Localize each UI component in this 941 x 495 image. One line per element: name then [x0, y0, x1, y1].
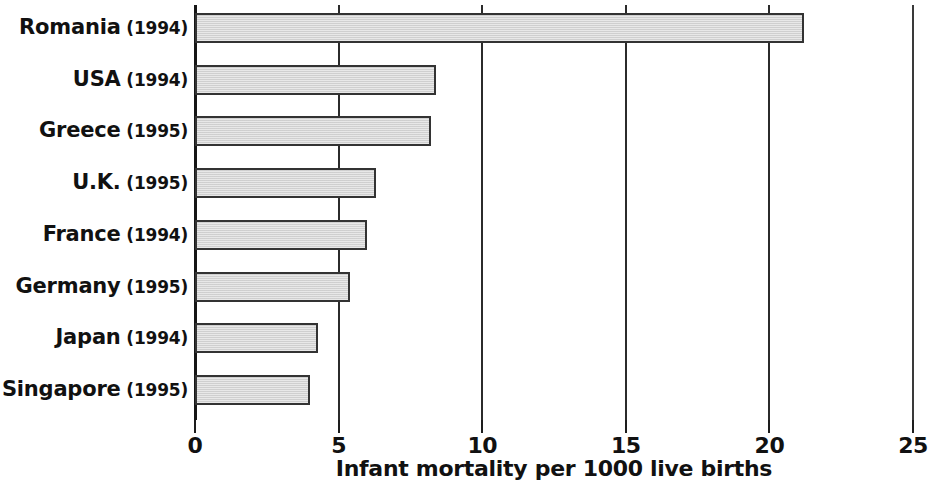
- gridline-10: [481, 5, 483, 420]
- bar-singapore: [195, 375, 310, 405]
- category-label-greece: Greece (1995): [39, 120, 188, 141]
- x-tick-label-15: 15: [611, 433, 641, 458]
- gridline-20: [768, 5, 770, 420]
- category-country-name: USA: [73, 67, 121, 91]
- bar-japan: [195, 323, 318, 353]
- bar-u-k: [195, 168, 376, 198]
- bar-chart: 0510152025Romania (1994)USA (1994)Greece…: [0, 0, 941, 495]
- category-label-usa: USA (1994): [73, 69, 188, 90]
- category-country-name: France: [43, 222, 121, 246]
- bar-germany: [195, 272, 350, 302]
- category-label-france: France (1994): [43, 224, 188, 245]
- x-tick-25: [912, 420, 914, 433]
- plot-area: 0510152025Romania (1994)USA (1994)Greece…: [0, 0, 941, 495]
- x-tick-label-20: 20: [755, 433, 785, 458]
- category-label-u-k: U.K. (1995): [72, 172, 188, 193]
- gridline-15: [625, 5, 627, 420]
- category-year: (1995): [121, 121, 188, 141]
- bar-usa: [195, 65, 436, 95]
- bar-romania: [195, 13, 804, 43]
- x-tick-0: [194, 420, 196, 433]
- x-tick-10: [481, 420, 483, 433]
- category-label-romania: Romania (1994): [19, 17, 188, 38]
- x-tick-20: [768, 420, 770, 433]
- category-country-name: U.K.: [72, 170, 120, 194]
- category-label-singapore: Singapore (1995): [2, 379, 188, 400]
- x-tick-5: [338, 420, 340, 433]
- category-year: (1994): [121, 225, 188, 245]
- x-axis-title: Infant mortality per 1000 live births: [195, 456, 913, 481]
- category-country-name: Germany: [15, 274, 120, 298]
- bar-greece: [195, 116, 431, 146]
- x-tick-label-0: 0: [188, 433, 203, 458]
- category-year: (1995): [121, 380, 188, 400]
- bar-france: [195, 220, 367, 250]
- category-country-name: Japan: [55, 325, 120, 349]
- gridline-25: [912, 5, 914, 420]
- category-country-name: Greece: [39, 118, 121, 142]
- category-country-name: Romania: [19, 15, 121, 39]
- category-year: (1994): [121, 70, 188, 90]
- category-year: (1994): [121, 328, 188, 348]
- x-tick-label-10: 10: [467, 433, 497, 458]
- category-year: (1994): [121, 18, 188, 38]
- category-label-japan: Japan (1994): [55, 327, 188, 348]
- x-tick-label-25: 25: [898, 433, 928, 458]
- category-country-name: Singapore: [2, 377, 121, 401]
- category-year: (1995): [121, 173, 188, 193]
- category-year: (1995): [121, 277, 188, 297]
- x-tick-15: [625, 420, 627, 433]
- category-label-germany: Germany (1995): [15, 276, 188, 297]
- x-tick-label-5: 5: [331, 433, 346, 458]
